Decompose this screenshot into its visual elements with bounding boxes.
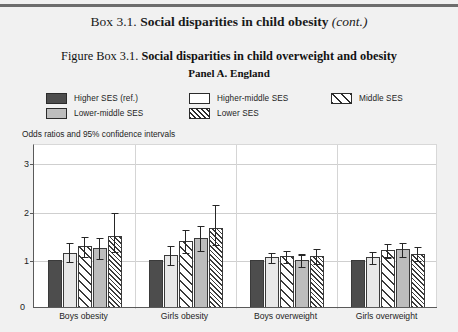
- figure-number: Figure Box 3.1.: [61, 49, 138, 63]
- y-tick-mark-1: [30, 261, 34, 262]
- legend-swatch-lower-ses-icon: [189, 108, 210, 119]
- legend-item-middle-ses: Middle SES: [331, 93, 403, 104]
- error-bar-cap-upper: [268, 253, 275, 254]
- legend-swatch-higher-ses-icon: [46, 93, 67, 104]
- top-divider-rule: [0, 4, 458, 7]
- error-bar-cap-lower: [66, 262, 73, 263]
- error-bar-cap-lower: [212, 245, 219, 246]
- bar-girls-overweight-higher-ses-ref: [351, 260, 365, 308]
- error-bar-line: [301, 254, 302, 266]
- error-bar-cap-upper: [197, 226, 204, 227]
- legend-item-higher-middle-ses: Higher-middle SES: [189, 93, 288, 104]
- chart-canvas: 123: [33, 144, 437, 308]
- error-bar-line: [215, 205, 216, 245]
- error-bar-cap-upper: [399, 243, 406, 244]
- error-bar-cap-lower: [298, 267, 305, 268]
- figure-heading: Figure Box 3.1. Social disparities in ch…: [0, 49, 458, 64]
- error-bar-cap-upper: [96, 238, 103, 239]
- error-bar-line: [286, 251, 287, 263]
- x-axis-label-boys-obesity: Boys obesity: [59, 311, 108, 321]
- error-bar-line: [99, 238, 100, 259]
- group-separator-3: [337, 145, 338, 309]
- box-title-text: Social disparities in child obesity: [140, 14, 328, 29]
- y-tick-label-3: 3: [24, 159, 29, 169]
- bar-boys-obesity-higher-ses-ref: [48, 260, 62, 308]
- error-bar-cap-lower: [384, 257, 391, 258]
- bar-girls-obesity-higher-ses-ref: [149, 260, 163, 308]
- error-bar-cap-lower: [414, 261, 421, 262]
- legend-label-lower-ses: Lower SES: [217, 109, 259, 118]
- legend-label-higher-middle-ses: Higher-middle SES: [217, 94, 288, 103]
- error-bar-cap-lower: [111, 252, 118, 253]
- error-bar-line: [69, 243, 70, 262]
- gridline-y-2: [34, 213, 436, 214]
- error-bar-cap-upper: [212, 205, 219, 206]
- error-bar-cap-lower: [167, 265, 174, 266]
- box-heading: Box 3.1. Social disparities in child obe…: [0, 14, 458, 30]
- error-bar-line: [271, 253, 272, 264]
- legend-item-higher-ses: Higher SES (ref.): [46, 93, 138, 104]
- legend-swatch-lower-middle-ses-icon: [46, 108, 67, 119]
- error-bar-line: [417, 247, 418, 261]
- error-bar-cap-lower: [369, 264, 376, 265]
- legend-item-lower-ses: Lower SES: [189, 108, 259, 119]
- error-bar-cap-upper: [283, 251, 290, 252]
- error-bar-cap-lower: [96, 259, 103, 260]
- x-axis-label-girls-obesity: Girls obesity: [161, 311, 208, 321]
- error-bar-cap-lower: [283, 263, 290, 264]
- legend-item-lower-middle-ses: Lower-middle SES: [46, 108, 143, 119]
- error-bar-line: [372, 252, 373, 264]
- error-bar-cap-upper: [66, 243, 73, 244]
- bar-girls-overweight-middle-ses: [381, 250, 395, 308]
- y-axis-note: Odds ratios and 95% confidence intervals: [22, 129, 175, 139]
- y-tick-label-1: 1: [24, 256, 29, 266]
- bar-boys-overweight-higher-middle-ses: [265, 257, 279, 308]
- legend-label-lower-middle-ses: Lower-middle SES: [74, 109, 143, 118]
- error-bar-cap-lower: [268, 263, 275, 264]
- y-tick-label-2: 2: [24, 208, 29, 218]
- error-bar-cap-upper: [298, 254, 305, 255]
- figure-page: Box 3.1. Social disparities in child obe…: [0, 0, 458, 332]
- error-bar-line: [316, 249, 317, 264]
- error-bar-cap-upper: [384, 244, 391, 245]
- gridline-y-3: [34, 164, 436, 165]
- chart-plot-area: 123 0 Boys obesityGirls obesityBoys over…: [0, 143, 458, 332]
- error-bar-line: [84, 237, 85, 257]
- legend-swatch-middle-ses-icon: [331, 93, 352, 104]
- error-bar-line: [170, 246, 171, 265]
- y-tick-mark-3: [30, 164, 34, 165]
- x-axis-label-girls-overweight: Girls overweight: [356, 311, 418, 321]
- bar-boys-overweight-middle-ses: [280, 256, 294, 308]
- error-bar-line: [185, 230, 186, 253]
- box-number: Box 3.1.: [91, 14, 137, 29]
- group-separator-2: [236, 145, 237, 309]
- error-bar-cap-upper: [81, 237, 88, 238]
- error-bar-cap-lower: [197, 251, 204, 252]
- error-bar-cap-upper: [369, 252, 376, 253]
- error-bar-cap-lower: [313, 264, 320, 265]
- legend-label-middle-ses: Middle SES: [359, 94, 403, 103]
- figure-title-text: Social disparities in child overweight a…: [141, 49, 397, 63]
- error-bar-cap-lower: [81, 257, 88, 258]
- legend-label-higher-ses: Higher SES (ref.): [74, 94, 138, 103]
- error-bar-cap-upper: [313, 249, 320, 250]
- legend-swatch-higher-middle-ses-icon: [189, 93, 210, 104]
- error-bar-line: [114, 213, 115, 252]
- error-bar-cap-upper: [414, 247, 421, 248]
- group-separator-1: [135, 145, 136, 309]
- x-axis-line: [33, 307, 437, 308]
- error-bar-line: [387, 244, 388, 258]
- panel-subtitle: Panel A. England: [0, 67, 458, 79]
- y-tick-mark-2: [30, 213, 34, 214]
- error-bar-cap-lower: [182, 253, 189, 254]
- x-axis-label-boys-overweight: Boys overweight: [254, 311, 317, 321]
- error-bar-line: [402, 243, 403, 257]
- error-bar-line: [200, 226, 201, 251]
- error-bar-cap-upper: [111, 213, 118, 214]
- error-bar-cap-upper: [182, 230, 189, 231]
- bar-boys-overweight-higher-ses-ref: [250, 260, 264, 308]
- y-tick-label-0: 0: [20, 302, 25, 312]
- box-cont-marker: (cont.): [332, 14, 368, 29]
- error-bar-cap-upper: [167, 246, 174, 247]
- error-bar-cap-lower: [399, 257, 406, 258]
